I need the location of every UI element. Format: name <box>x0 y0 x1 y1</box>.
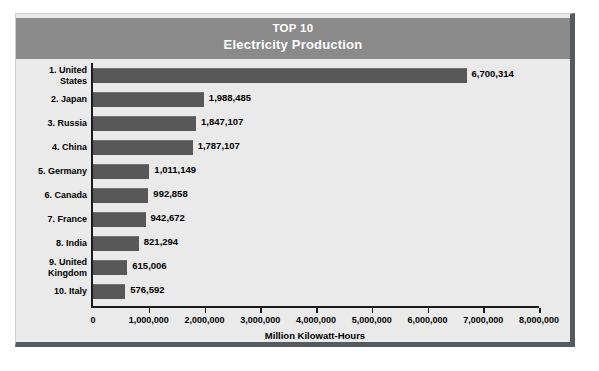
bar-category-label: 2. Japan <box>16 94 87 105</box>
x-axis-tick <box>372 308 374 313</box>
bar <box>93 164 149 179</box>
bar-value-label: 576,592 <box>130 284 164 295</box>
bar-value-label: 821,294 <box>144 236 178 247</box>
x-axis-tick <box>205 308 207 313</box>
x-axis-tick <box>539 308 541 313</box>
x-axis-tick <box>483 308 485 313</box>
bar-category-label: 10. Italy <box>16 286 87 297</box>
bar <box>93 140 193 155</box>
bar-value-label: 1,988,485 <box>209 92 251 103</box>
x-axis-tick-label: 5,000,000 <box>352 315 392 325</box>
bar-category-label: 9. UnitedKingdom <box>16 257 87 278</box>
x-axis-line <box>91 306 539 308</box>
plot-area: 1. UnitedStates6,700,3142. Japan1,988,48… <box>16 59 570 342</box>
x-axis-title: Million Kilowatt-Hours <box>91 330 539 341</box>
bar-category-label: 5. Germany <box>16 166 87 177</box>
bar-category-label: 1. UnitedStates <box>16 65 87 86</box>
bar <box>93 212 146 227</box>
chart-title-band: TOP 10 Electricity Production <box>16 18 570 59</box>
x-axis-tick <box>149 308 151 313</box>
bar-value-label: 942,672 <box>151 212 185 223</box>
bar-category-label: 7. France <box>16 214 87 225</box>
bar-value-label: 992,858 <box>153 188 187 199</box>
table-row: 10. Italy576,592 <box>16 279 570 303</box>
x-axis-tick <box>316 308 318 313</box>
x-axis-tick <box>428 308 430 313</box>
bar-value-label: 6,700,314 <box>472 68 514 79</box>
bar-category-label: 3. Russia <box>16 118 87 129</box>
bar <box>93 116 196 131</box>
bar-value-label: 1,847,107 <box>201 116 243 127</box>
x-axis-tick-label: 2,000,000 <box>184 315 224 325</box>
table-row: 7. France942,672 <box>16 207 570 231</box>
bar <box>93 236 139 251</box>
bar-value-label: 615,006 <box>132 260 166 271</box>
x-axis-tick-label: 8,000,000 <box>519 315 559 325</box>
x-axis-tick-label: 7,000,000 <box>463 315 503 325</box>
bar-category-label: 4. China <box>16 142 87 153</box>
table-row: 6. Canada992,858 <box>16 183 570 207</box>
chart-title-line1: TOP 10 <box>16 21 570 36</box>
bar <box>93 260 127 275</box>
x-axis-tick-label: 1,000,000 <box>129 315 169 325</box>
bar-value-label: 1,011,149 <box>154 164 196 175</box>
bar <box>93 92 204 107</box>
table-row: 8. India821,294 <box>16 231 570 255</box>
bar <box>93 68 467 83</box>
table-row: 1. UnitedStates6,700,314 <box>16 63 570 87</box>
bar <box>93 188 148 203</box>
x-axis-tick <box>260 308 262 313</box>
chart-panel: TOP 10 Electricity Production 1. UnitedS… <box>15 13 575 347</box>
x-axis-tick-label: 4,000,000 <box>296 315 336 325</box>
table-row: 4. China1,787,107 <box>16 135 570 159</box>
bar-value-label: 1,787,107 <box>198 140 240 151</box>
table-row: 3. Russia1,847,107 <box>16 111 570 135</box>
table-row: 5. Germany1,011,149 <box>16 159 570 183</box>
x-axis-tick-label: 3,000,000 <box>240 315 280 325</box>
x-axis-tick-label: 6,000,000 <box>407 315 447 325</box>
bar <box>93 284 125 299</box>
x-axis-tick-label: 0 <box>90 315 95 325</box>
chart-title-line2: Electricity Production <box>16 36 570 54</box>
table-row: 9. UnitedKingdom615,006 <box>16 255 570 279</box>
table-row: 2. Japan1,988,485 <box>16 87 570 111</box>
bar-category-label: 8. India <box>16 238 87 249</box>
bar-category-label: 6. Canada <box>16 190 87 201</box>
